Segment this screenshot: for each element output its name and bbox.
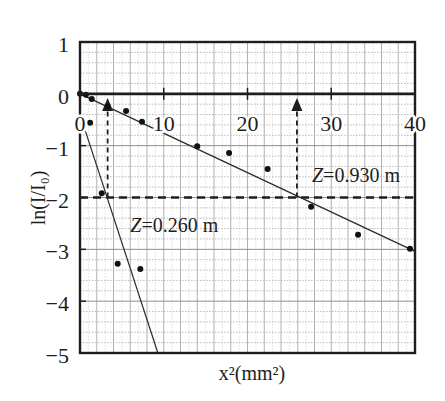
y-tick-label: 0 <box>58 84 69 109</box>
chart-svg: 10−1−2−3−4−5010203040Z=0.930 mZ=0.260 mx… <box>0 0 445 401</box>
data-point-series-1 <box>105 104 111 110</box>
data-point-series-2 <box>115 261 121 267</box>
data-point-series-1 <box>194 143 200 149</box>
data-point-series-1 <box>123 108 129 114</box>
data-point-series-1 <box>407 246 413 252</box>
x-tick-label: 10 <box>153 111 175 136</box>
chart-figure: 10−1−2−3−4−5010203040Z=0.930 mZ=0.260 mx… <box>0 0 445 401</box>
y-axis-label: ln(I/I₀) <box>27 171 50 226</box>
annotation-label: Z=0.260 m <box>130 214 218 236</box>
y-tick-label: −1 <box>46 136 69 161</box>
x-tick-label: 40 <box>404 111 426 136</box>
data-point-series-1 <box>308 204 314 210</box>
x-tick-label: 0 <box>75 111 86 136</box>
data-point-series-2 <box>99 190 105 196</box>
data-point-series-1 <box>265 166 271 172</box>
y-tick-label: 1 <box>58 32 69 57</box>
y-tick-label: −4 <box>46 291 69 316</box>
data-point-series-1 <box>226 150 232 156</box>
annotation-value: =0.260 m <box>141 214 218 236</box>
y-tick-label: −2 <box>46 188 69 213</box>
data-point-series-1 <box>139 119 145 125</box>
annotation-value: =0.930 m <box>323 164 400 186</box>
data-point-series-2 <box>87 120 93 126</box>
x-axis-label: x²(mm²) <box>219 362 285 385</box>
data-point-series-2 <box>137 266 143 272</box>
data-point-series-1 <box>89 96 95 102</box>
x-tick-label: 30 <box>320 111 342 136</box>
y-tick-label: −3 <box>46 239 69 264</box>
x-tick-label: 20 <box>237 111 259 136</box>
data-point-series-1 <box>355 232 361 238</box>
y-tick-label: −5 <box>46 343 69 368</box>
annotation-label: Z=0.930 m <box>312 164 400 186</box>
